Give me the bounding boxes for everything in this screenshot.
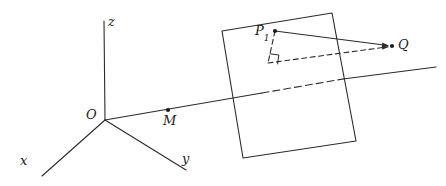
figure-canvas [0,0,446,186]
point-q-dot [390,44,394,48]
z-axis-line [104,21,105,120]
x-axis-line [42,120,105,176]
point-m-label: M [163,114,176,127]
point-p1-dot [273,29,277,33]
plane-parallelogram [222,13,356,158]
point-q-label: Q [398,38,409,51]
segment-foot-to-q [268,47,388,63]
origin-label: O [86,108,97,121]
y-axis-label: y [182,152,189,165]
point-p1-label-subscript: 1 [264,33,270,43]
ray-segment-solid-outside [105,93,262,120]
z-axis-label: z [108,15,115,28]
point-p1-label-base: P [255,23,264,38]
x-axis-label: x [20,154,27,167]
geometry-figure: z O M x y P1 Q [0,0,446,186]
point-m-dot [166,108,170,112]
point-p1-label: P1 [255,24,269,41]
ray-segment-dashed-inside-plane [262,79,343,93]
ray-segment-solid-beyond [343,67,436,79]
segment-p1-to-q [275,31,388,46]
